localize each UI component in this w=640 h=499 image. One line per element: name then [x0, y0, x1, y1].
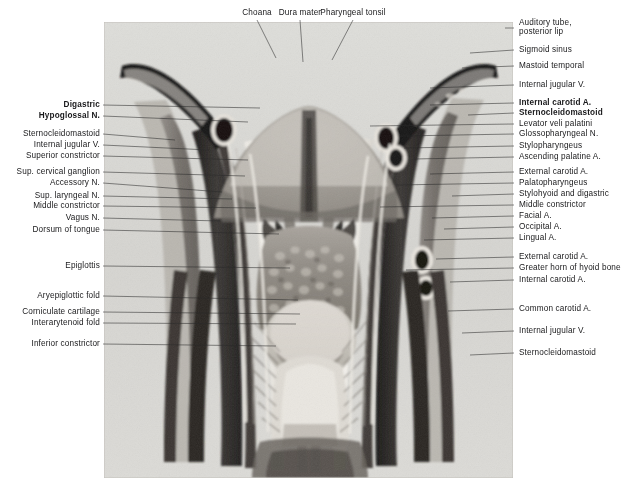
label-left-12: Aryepiglottic fold — [37, 291, 100, 301]
label-right-11: External carotid A. — [519, 167, 588, 177]
label-right-14: Middle constrictor — [519, 200, 586, 210]
label-left-15: Inferior constrictor — [31, 339, 100, 349]
label-left-4: Superior constrictor — [26, 151, 100, 161]
label-left-3: Internal jugular V. — [34, 140, 100, 150]
label-left-0: Digastric — [64, 100, 100, 110]
label-right-5: Internal carotid A. — [519, 98, 591, 108]
label-left-10: Dorsum of tongue — [33, 225, 100, 235]
label-left-8: Middle constrictor — [33, 201, 100, 211]
label-right-17: Lingual A. — [519, 233, 556, 243]
label-right-6: Sternocleidomastoid — [519, 108, 603, 118]
label-right-13: Stylohyoid and digastric — [519, 189, 609, 199]
label-left-9: Vagus N. — [66, 213, 100, 223]
label-left-13: Corniculate cartilage — [22, 307, 100, 317]
label-right-10: Ascending palatine A. — [519, 152, 601, 162]
label-right-12: Palatopharyngeus — [519, 178, 587, 188]
label-right-3: Mastoid temporal — [519, 61, 584, 71]
label-left-7: Sup. laryngeal N. — [35, 191, 100, 201]
label-right-18: External carotid A. — [519, 252, 588, 262]
dissection-photograph — [104, 22, 513, 478]
label-left-1: Hypoglossal N. — [39, 111, 100, 121]
anatomy-figure: ChoanaDura materPharyngeal tonsil Digast… — [0, 0, 640, 499]
label-right-20: Internal carotid A. — [519, 275, 586, 285]
label-right-22: Internal jugular V. — [519, 326, 585, 336]
label-right-4: Internal jugular V. — [519, 80, 585, 90]
label-left-11: Epiglottis — [65, 261, 100, 271]
label-right-16: Occipital A. — [519, 222, 562, 232]
label-top-2: Pharyngeal tonsil — [308, 8, 398, 18]
label-left-6: Accessory N. — [50, 178, 100, 188]
label-left-5: Sup. cervical ganglion — [17, 167, 100, 177]
label-right-9: Stylopharyngeus — [519, 141, 582, 151]
label-left-2: Sternocleidomastoid — [23, 129, 100, 139]
label-right-2: Sigmoid sinus — [519, 45, 572, 55]
label-right-21: Common carotid A. — [519, 304, 591, 314]
label-right-1: posterior lip — [519, 27, 563, 37]
label-right-7: Levator veli palatini — [519, 119, 592, 129]
label-right-8: Glossopharyngeal N. — [519, 129, 598, 139]
label-right-15: Facial A. — [519, 211, 552, 221]
label-right-23: Sternocleidomastoid — [519, 348, 596, 358]
label-left-14: Interarytenoid fold — [32, 318, 100, 328]
label-right-19: Greater horn of hyoid bone — [519, 263, 621, 273]
